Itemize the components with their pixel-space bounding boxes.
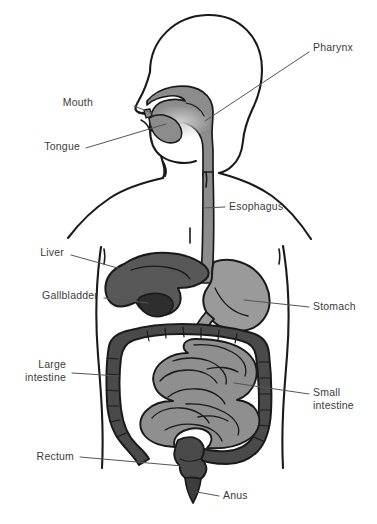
rib-tick-left-torso: [104, 249, 105, 264]
label-mouth: Mouth: [30, 96, 93, 109]
anus-shape: [185, 477, 201, 503]
label-esophagus: Esophagus: [229, 200, 283, 213]
small-intestine-group: [140, 339, 259, 448]
label-anus: Anus: [223, 489, 248, 502]
rectum-shape: [174, 437, 206, 481]
label-rectum: Rectum: [12, 450, 74, 463]
neck-front-outline: [161, 156, 164, 178]
left-torso-outline: [96, 247, 102, 468]
label-stomach: Stomach: [313, 300, 356, 313]
label-gallbladder: Gallbladder: [12, 289, 98, 302]
label-small-intestine: Small intestine: [313, 386, 373, 412]
lower-lip-mark: [141, 120, 149, 129]
label-liver: Liver: [12, 246, 64, 259]
label-tongue: Tongue: [14, 140, 80, 153]
rib-tick-upper-right: [206, 172, 207, 187]
leader-line-pharynx: [205, 52, 309, 121]
leader-line-rectum: [80, 457, 182, 466]
left-shoulder-outline: [68, 178, 163, 238]
anatomy-illustration: [0, 0, 377, 524]
label-large-intestine: Large intestine: [12, 358, 66, 384]
right-torso-outline: [282, 246, 288, 468]
leader-line-tongue: [86, 124, 166, 148]
label-pharynx: Pharynx: [313, 41, 353, 54]
gallbladder-shape: [138, 293, 173, 316]
small-intestine-shape: [140, 339, 259, 448]
gallbladder-group: [138, 293, 173, 316]
rib-tick-right-torso: [279, 249, 280, 264]
digestive-system-diagram: Pharynx Mouth Tongue Esophagus Liver Gal…: [0, 0, 377, 524]
leader-line-anus: [197, 492, 219, 496]
